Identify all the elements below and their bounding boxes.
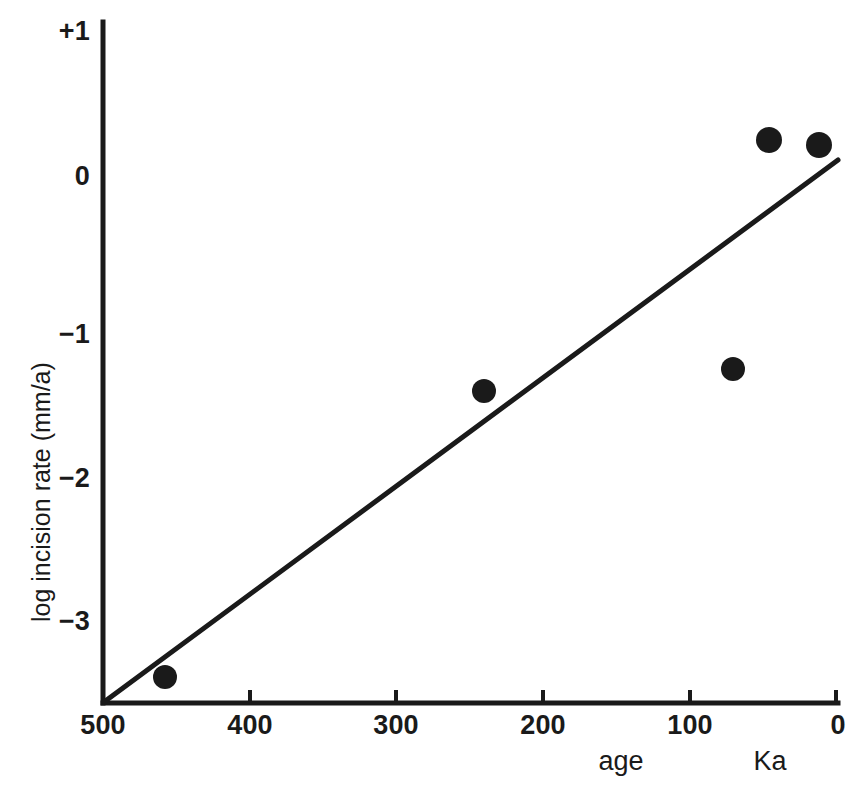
- chart-figure: +1 0 −1 −2 −3 500 400 300 200 100 0 age …: [0, 0, 857, 791]
- y-axis-title: log incision rate (mm/a): [29, 62, 54, 622]
- x-tick-label-100: 100: [667, 712, 713, 739]
- plot-area: [0, 0, 857, 791]
- y-tick-label-1: +1: [38, 18, 90, 45]
- data-point: [153, 665, 177, 689]
- data-point: [756, 127, 782, 153]
- x-tick-label-200: 200: [520, 712, 566, 739]
- data-point: [721, 357, 745, 381]
- x-axis-title: age: [598, 748, 643, 775]
- x-tick-label-500: 500: [80, 712, 126, 739]
- x-tick-label-400: 400: [227, 712, 273, 739]
- data-point: [472, 379, 496, 403]
- data-point: [806, 132, 832, 158]
- data-points: [153, 127, 832, 689]
- regression-line: [104, 160, 838, 702]
- x-axis-unit: Ka: [753, 748, 786, 775]
- x-tick-label-300: 300: [373, 712, 419, 739]
- x-tick-label-0: 0: [830, 712, 845, 739]
